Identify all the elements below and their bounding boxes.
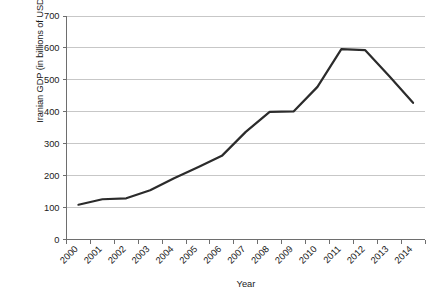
y-axis-ticks: 0100200300400500600700	[44, 11, 67, 245]
x-tick-label: 2013	[369, 244, 391, 266]
y-tick-label: 0	[54, 235, 59, 245]
gridlines	[67, 16, 426, 208]
chart-plot-area: 0100200300400500600700 20002001200220032…	[0, 0, 443, 303]
y-tick-label: 200	[44, 171, 60, 181]
x-tick-label: 2010	[297, 244, 319, 266]
gdp-line-chart: Iranian GDP (in billions of USD) 0100200…	[0, 0, 443, 303]
y-tick-label: 700	[44, 11, 60, 21]
x-tick-label: 2004	[154, 244, 176, 266]
x-tick-label: 2006	[202, 244, 224, 266]
y-tick-label: 500	[44, 75, 60, 85]
x-tick-label: 2007	[226, 244, 248, 266]
x-tick-label: 2003	[130, 244, 152, 266]
x-axis-ticks: 2000200120022003200420052006200720082009…	[58, 240, 425, 266]
x-tick-label: 2014	[393, 244, 415, 266]
y-tick-label: 400	[44, 107, 60, 117]
x-tick-label: 2011	[322, 244, 343, 265]
x-tick-label: 2001	[82, 244, 104, 266]
x-axis-title: Year	[66, 279, 426, 289]
x-tick-label: 2005	[178, 244, 200, 266]
y-tick-label: 300	[44, 139, 60, 149]
data-series-line	[78, 49, 413, 204]
x-tick-label: 2012	[345, 244, 367, 266]
x-tick-label: 2002	[106, 244, 128, 266]
x-tick-label: 2008	[249, 244, 271, 266]
y-tick-label: 600	[44, 43, 60, 53]
x-tick-label: 2000	[58, 244, 80, 266]
x-tick-label: 2009	[273, 244, 295, 266]
y-tick-label: 100	[44, 203, 60, 213]
